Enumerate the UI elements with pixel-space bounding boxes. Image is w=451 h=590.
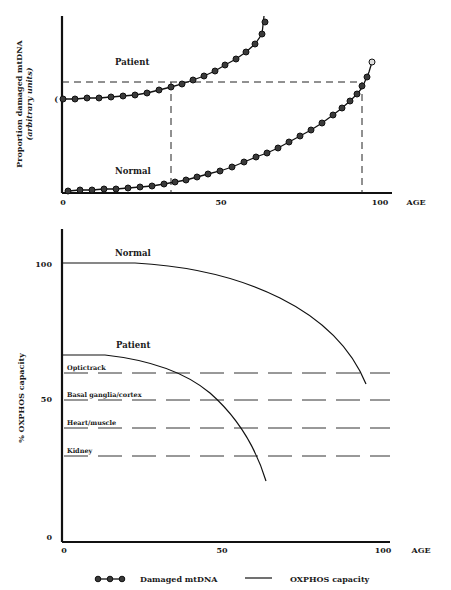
bottom-y-tick-50: 50 (41, 394, 53, 404)
legend-damaged-mtdna-label: Damaged mtDNA (140, 574, 218, 584)
bottom-y-tick-0: 0 (46, 532, 52, 542)
bottom-x-tick-50: 50 (216, 545, 228, 555)
bottom-y-axis-label: % OXPHOS capacity (16, 353, 26, 443)
top-x-axis-label: AGE (405, 197, 425, 207)
top-y-axis-label: Proportion damaged mtDNA (14, 39, 24, 167)
legend: Damaged mtDNA OXPHOS capacity (95, 574, 369, 584)
legend-oxphos-label: OXPHOS capacity (290, 574, 370, 584)
top-x-tick-0: 0 (60, 197, 66, 207)
top-patient-markers (60, 19, 268, 102)
bottom-normal-label: Normal (115, 248, 151, 258)
top-x-tick-50: 50 (215, 197, 227, 207)
top-x-tick-100: 100 (372, 197, 389, 207)
figure-canvas: Proportion damaged mtDNA (arbitrary unit… (0, 0, 451, 590)
bottom-x-axis-label: AGE (410, 545, 430, 555)
band-label-optictrack: Optictrack (67, 364, 106, 372)
top-normal-label: Normal (115, 166, 151, 176)
bottom-y-tick-100: 100 (35, 259, 52, 269)
top-y-tick-marker: ( (54, 94, 58, 104)
top-normal-markers (65, 59, 375, 194)
bottom-patient-label: Patient (116, 340, 150, 350)
bottom-chart: % OXPHOS capacity 100 50 0 0 50 100 AGE … (16, 229, 431, 555)
bottom-x-tick-100: 100 (375, 545, 392, 555)
band-label-kidney: Kidney (67, 447, 93, 455)
band-label-heart-muscle: Heart/muscle (67, 419, 116, 427)
top-chart: Proportion damaged mtDNA (arbitrary unit… (14, 16, 426, 207)
legend-damaged-mtdna-swatch (95, 576, 125, 582)
band-label-basal-ganglia: Basal ganglia/cortex (67, 391, 142, 399)
bottom-x-tick-0: 0 (61, 545, 67, 555)
top-y-axis-sublabel: (arbitrary units) (24, 67, 34, 140)
tissue-threshold-lines (64, 373, 390, 456)
top-patient-label: Patient (115, 57, 149, 67)
